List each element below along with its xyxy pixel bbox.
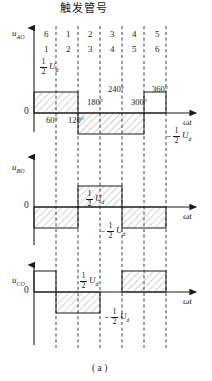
uCO-pos-den: 2 bbox=[82, 282, 86, 290]
angle-tick-180: 180° bbox=[87, 98, 103, 107]
uBO-neg-ud-sub: d bbox=[123, 231, 126, 237]
uAO-positive-block bbox=[34, 92, 78, 113]
uCO-neg-minus: − bbox=[104, 312, 109, 322]
angle-tick-360: 360° bbox=[152, 85, 168, 94]
tube-bottom-3: 4 bbox=[110, 45, 115, 54]
axis-label-uCO: uCO bbox=[12, 276, 25, 287]
axis-omega-uAO: ωt bbox=[183, 118, 192, 127]
tube-bottom-4: 5 bbox=[132, 45, 137, 54]
axis-omega-uCO: ωt bbox=[183, 297, 192, 306]
axis-uAO bbox=[34, 28, 196, 134]
axis-omega-uBO: ωt bbox=[183, 212, 192, 221]
uAO-positive-block-2 bbox=[144, 92, 166, 113]
uBO-positive-value-label: 1 2 Ud bbox=[84, 190, 104, 208]
uCO-pos-ud-sub: d bbox=[96, 281, 99, 287]
uBO-negative-value-label: − 1 2 Ud bbox=[100, 222, 125, 240]
uCO-positive-block bbox=[122, 271, 166, 292]
uAO-neg-num: 1 bbox=[175, 127, 179, 135]
uBO-pos-ud-sub: d bbox=[102, 199, 105, 205]
uAO-pos-den: 2 bbox=[42, 68, 46, 76]
tube-top-2: 2 bbox=[88, 30, 93, 39]
uAO-neg-minus: − bbox=[166, 131, 171, 141]
tube-bottom-0: 1 bbox=[44, 45, 49, 54]
axis-uCO bbox=[34, 265, 196, 345]
uCO-positive-block-tail bbox=[34, 271, 56, 292]
axis-label-uAO-sub: AO bbox=[17, 34, 25, 40]
axis-label-uBO: uBO bbox=[12, 163, 25, 174]
uCO-negative-block bbox=[56, 292, 100, 313]
uCO-negative-value-label: − 1 2 Ud bbox=[104, 308, 129, 326]
tube-top-5: 5 bbox=[155, 30, 160, 39]
uAO-neg-den: 2 bbox=[175, 137, 179, 145]
uBO-negative-block bbox=[34, 207, 78, 228]
uAO-negative-value-label: − 1 2 Ud bbox=[166, 127, 191, 145]
uAO-pos-ud-sub: d bbox=[56, 67, 59, 73]
tube-top-4: 4 bbox=[132, 30, 137, 39]
uAO-positive-value-label: 1 2 Ud bbox=[38, 58, 58, 76]
angle-tick-120: 120° bbox=[68, 116, 84, 125]
uCO-neg-ud-sub: d bbox=[127, 317, 130, 323]
uBO-pos-num: 1 bbox=[88, 190, 92, 198]
uAO-neg-ud-sub: d bbox=[189, 136, 192, 142]
tube-bottom-1: 2 bbox=[66, 45, 71, 54]
angle-tick-240: 240° bbox=[108, 85, 124, 94]
uBO-neg-minus: − bbox=[100, 226, 105, 236]
uBO-negative-block-2 bbox=[122, 207, 166, 228]
angle-tick-60: 60° bbox=[46, 116, 58, 125]
axis-zero-uCO: 0 bbox=[24, 286, 29, 296]
uBO-neg-den: 2 bbox=[109, 232, 113, 240]
axis-zero-uAO: 0 bbox=[24, 107, 29, 117]
uBO-neg-num: 1 bbox=[109, 222, 113, 230]
uCO-positive-value-label: 1 2 Ud bbox=[78, 272, 98, 290]
uAO-negative-block bbox=[78, 113, 144, 134]
uBO-pos-den: 2 bbox=[88, 200, 92, 208]
axis-zero-uBO: 0 bbox=[24, 201, 29, 211]
uCO-pos-num: 1 bbox=[82, 272, 86, 280]
uCO-neg-den: 2 bbox=[113, 318, 117, 326]
figure-caption: ( a ) bbox=[92, 364, 107, 374]
waveform-figure: 触发管号 6 1 2 3 4 5 1 2 3 4 5 6 uAO 0 ωt 1 … bbox=[0, 0, 212, 381]
figure-title: 触发管号 bbox=[60, 3, 108, 14]
angle-tick-300: 300° bbox=[131, 98, 147, 107]
tube-top-0: 6 bbox=[44, 30, 49, 39]
axis-label-uAO: uAO bbox=[12, 29, 25, 40]
tube-bottom-2: 3 bbox=[88, 45, 93, 54]
uCO-neg-num: 1 bbox=[113, 308, 117, 316]
tube-bottom-5: 6 bbox=[155, 45, 160, 54]
tube-top-1: 1 bbox=[66, 30, 71, 39]
axis-label-uBO-sub: BO bbox=[17, 168, 25, 174]
uAO-pos-num: 1 bbox=[42, 58, 46, 66]
tube-top-3: 3 bbox=[110, 30, 115, 39]
